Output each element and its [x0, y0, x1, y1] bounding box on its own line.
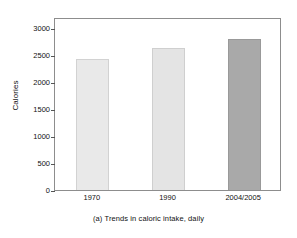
y-tick-label: 1500 — [33, 106, 50, 114]
bar — [228, 39, 261, 190]
y-tick-label: 0 — [46, 187, 50, 195]
y-tick-mark — [51, 83, 55, 84]
y-tick-label: 500 — [37, 160, 50, 168]
y-axis-tick-labels: 050010001500200025003000 — [20, 18, 50, 191]
figure-caption: (a) Trends in caloric intake, daily — [0, 214, 297, 223]
y-tick-label: 2500 — [33, 52, 50, 60]
plot-area — [55, 19, 280, 190]
y-tick-mark — [51, 56, 55, 57]
y-axis-title-text: Calories — [11, 80, 20, 110]
y-tick-mark — [51, 191, 55, 192]
y-tick-label: 3000 — [33, 25, 50, 33]
x-tick-label: 2004/2005 — [225, 194, 260, 202]
bar — [76, 59, 109, 190]
y-tick-mark — [51, 29, 55, 30]
bar — [152, 48, 185, 190]
plot-frame — [54, 18, 281, 191]
y-tick-mark — [51, 110, 55, 111]
y-tick-mark — [51, 137, 55, 138]
figure: Calories 050010001500200025003000 197019… — [0, 0, 297, 238]
x-tick-label: 1990 — [159, 194, 176, 202]
x-axis-tick-labels: 197019902004/2005 — [54, 194, 281, 208]
y-tick-label: 1000 — [33, 133, 50, 141]
y-tick-mark — [51, 164, 55, 165]
x-tick-label: 1970 — [83, 194, 100, 202]
y-tick-label: 2000 — [33, 79, 50, 87]
